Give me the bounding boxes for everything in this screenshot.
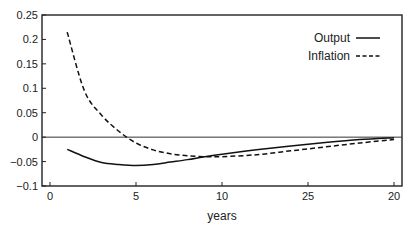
y-tick-label: 0.25: [17, 9, 38, 21]
x-axis-label: years: [207, 209, 236, 223]
series-output: [67, 138, 394, 166]
y-tick-label: −0.05: [10, 156, 38, 168]
x-axis: 05102520: [47, 182, 400, 202]
legend-label-output: Output: [314, 31, 351, 45]
y-tick-label: 0: [32, 131, 38, 143]
x-tick-label: 0: [47, 190, 53, 202]
y-tick-label: 0.1: [23, 82, 38, 94]
legend: OutputInflation: [308, 31, 380, 63]
x-tick-label: 25: [302, 190, 314, 202]
y-tick-label: 0.15: [17, 58, 38, 70]
line-chart: 0.250.20.150.10.050−0.05−0.1 05102520 Ou…: [0, 0, 415, 230]
y-tick-label: −0.1: [16, 180, 38, 192]
x-tick-label: 20: [388, 190, 400, 202]
y-axis: 0.250.20.150.10.050−0.05−0.1: [10, 9, 46, 192]
x-tick-label: 10: [216, 190, 228, 202]
x-tick-label: 5: [133, 190, 139, 202]
y-tick-label: 0.2: [23, 33, 38, 45]
legend-label-inflation: Inflation: [308, 49, 350, 63]
y-tick-label: 0.05: [17, 107, 38, 119]
